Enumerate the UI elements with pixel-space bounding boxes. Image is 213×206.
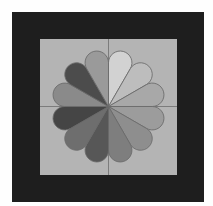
figure-canvas [0,0,213,206]
petal-group [50,48,166,164]
rosette [0,0,213,206]
